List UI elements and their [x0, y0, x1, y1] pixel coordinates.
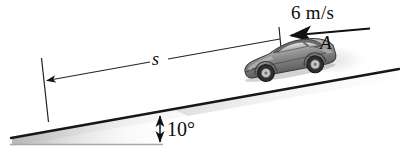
velocity-label: 6 m/s [291, 3, 334, 22]
incline-angle-label: 10° [167, 119, 195, 139]
body-label-a: A [320, 33, 332, 52]
physics-incline-diagram: 6 m/s A s 10° [0, 0, 400, 168]
distance-label-s: s [152, 50, 159, 68]
incline-surface [11, 69, 399, 138]
dimension-line-left-segment [47, 62, 150, 81]
dimension-extension-left [42, 58, 49, 122]
diagram-canvas [0, 0, 400, 168]
